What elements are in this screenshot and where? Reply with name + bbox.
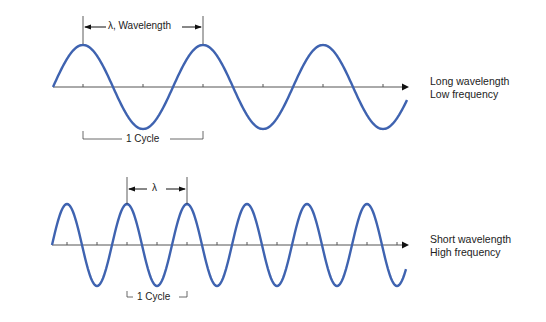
short-wave-group (52, 177, 409, 297)
long-wavelength-label: λ, Wavelength (106, 20, 173, 31)
long-wave-caption: Long wavelength Low frequency (430, 75, 509, 101)
long-wave-caption-line2: Low frequency (430, 88, 509, 101)
short-wavelength-label: λ (150, 182, 159, 193)
wave-diagram (0, 0, 546, 322)
short-wave-caption-line2: High frequency (430, 246, 511, 259)
long-wave-caption-line1: Long wavelength (430, 75, 509, 88)
long-wave-group (53, 16, 409, 139)
short-wave-caption-line1: Short wavelength (430, 233, 511, 246)
long-cycle-label: 1 Cycle (124, 133, 161, 144)
short-cycle-label: 1 Cycle (135, 291, 172, 302)
short-wave-axis-arrow (402, 242, 409, 249)
long-wave-axis-arrow (402, 84, 409, 91)
short-wave-caption: Short wavelength High frequency (430, 233, 511, 259)
